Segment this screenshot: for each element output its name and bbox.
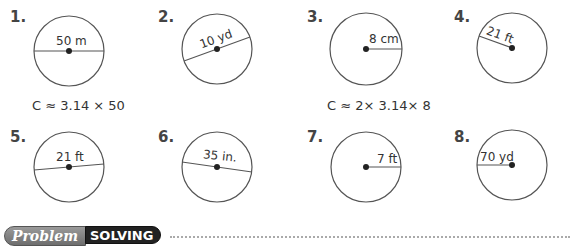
banner-problem-text: Problem xyxy=(4,226,86,246)
problem-solving-banner: Problem SOLVING xyxy=(4,226,164,246)
label-8: 70 yd xyxy=(480,150,514,164)
formula-1: C ≈ 3.14 × 50 xyxy=(32,98,125,113)
label-5: 21 ft xyxy=(56,150,84,164)
label-3: 8 cm xyxy=(369,32,399,46)
banner-solving-text: SOLVING xyxy=(85,226,161,244)
label-1: 50 m xyxy=(56,34,87,48)
label-7: 7 ft xyxy=(377,152,397,166)
dotted-divider xyxy=(170,236,570,238)
formula-3: C ≈ 2× 3.14× 8 xyxy=(327,98,431,113)
